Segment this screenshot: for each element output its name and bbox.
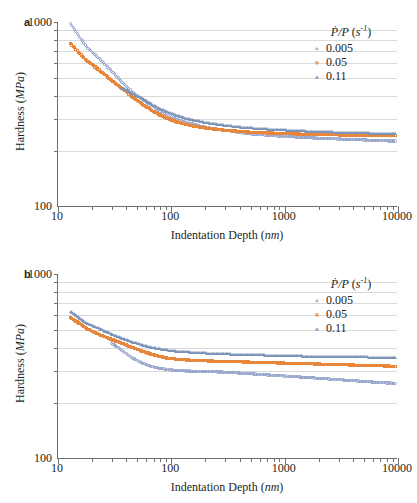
data-point	[152, 110, 155, 113]
data-point	[388, 365, 391, 368]
data-point	[92, 52, 95, 55]
data-point	[335, 137, 338, 140]
data-point	[210, 127, 213, 130]
data-point	[281, 135, 284, 138]
data-point	[354, 138, 357, 141]
data-point	[272, 354, 276, 357]
data-point	[278, 361, 281, 364]
data-point	[341, 378, 344, 381]
data-point	[266, 131, 269, 134]
data-point	[380, 356, 384, 359]
data-point	[326, 130, 330, 133]
data-point	[284, 128, 288, 131]
data-point	[216, 360, 219, 363]
data-point	[191, 122, 194, 125]
data-point	[69, 42, 72, 45]
data-point	[361, 138, 364, 141]
data-point	[156, 366, 159, 369]
data-point	[355, 131, 359, 134]
data-point	[370, 380, 373, 383]
data-point	[292, 129, 296, 132]
data-point	[140, 97, 144, 100]
data-point	[262, 353, 266, 356]
data-point	[204, 126, 207, 129]
data-point	[383, 364, 386, 367]
data-point	[232, 129, 235, 132]
data-point	[141, 344, 145, 347]
data-point	[327, 377, 330, 380]
data-point	[317, 130, 321, 133]
data-point	[352, 138, 355, 141]
data-point	[216, 128, 219, 131]
data-point	[262, 361, 265, 364]
data-point	[352, 131, 356, 134]
data-point	[170, 112, 174, 115]
data-point	[345, 133, 348, 136]
square-marker-icon	[313, 311, 320, 318]
data-point	[208, 359, 211, 362]
data-point	[368, 132, 372, 135]
data-point	[281, 128, 285, 131]
data-point	[126, 86, 129, 89]
data-point	[252, 353, 256, 356]
data-point	[237, 371, 240, 374]
data-point	[216, 123, 220, 126]
data-point	[92, 64, 95, 67]
data-point	[342, 138, 345, 141]
y-axis-bottom-label-b: 100	[12, 451, 52, 466]
data-point	[148, 101, 152, 104]
data-point	[384, 356, 388, 359]
data-point	[231, 129, 234, 132]
data-point	[367, 380, 370, 383]
y-axis-tick	[54, 330, 58, 331]
data-point	[221, 123, 225, 126]
data-point	[268, 354, 272, 357]
data-point	[370, 132, 374, 135]
data-point	[381, 132, 385, 135]
data-point	[387, 356, 391, 359]
data-point	[256, 127, 260, 130]
data-point	[212, 122, 216, 125]
data-point	[253, 372, 256, 375]
data-point	[245, 132, 248, 135]
data-point	[130, 90, 133, 93]
data-point	[368, 139, 371, 142]
data-point	[269, 374, 272, 377]
data-point	[201, 359, 204, 362]
data-point	[234, 353, 238, 356]
data-point	[154, 105, 158, 108]
data-point	[235, 371, 238, 374]
data-point	[275, 354, 279, 357]
data-point	[245, 360, 248, 363]
data-point	[136, 359, 139, 362]
data-point	[218, 360, 221, 363]
data-point	[327, 355, 331, 358]
data-point	[204, 351, 208, 354]
data-point	[102, 335, 105, 338]
data-point	[170, 349, 174, 352]
data-point	[289, 362, 292, 365]
data-point	[180, 122, 183, 125]
data-point	[188, 359, 191, 362]
data-point	[288, 135, 291, 138]
data-point	[322, 355, 326, 358]
data-point	[284, 135, 287, 138]
data-point	[225, 129, 228, 132]
data-point	[352, 363, 355, 366]
data-point	[310, 362, 313, 365]
data-point	[119, 86, 122, 89]
data-point	[248, 353, 252, 356]
data-point	[239, 353, 243, 356]
data-point	[276, 132, 279, 135]
data-point	[319, 130, 323, 133]
data-point	[239, 126, 243, 129]
data-point	[174, 350, 178, 353]
data-point	[174, 358, 177, 361]
legend-p-dot-b: Ṗ	[331, 277, 338, 291]
data-point	[152, 353, 155, 356]
data-point	[342, 378, 345, 381]
data-point	[244, 130, 247, 133]
data-point	[294, 132, 297, 135]
data-point	[214, 127, 217, 130]
data-point	[153, 353, 156, 356]
